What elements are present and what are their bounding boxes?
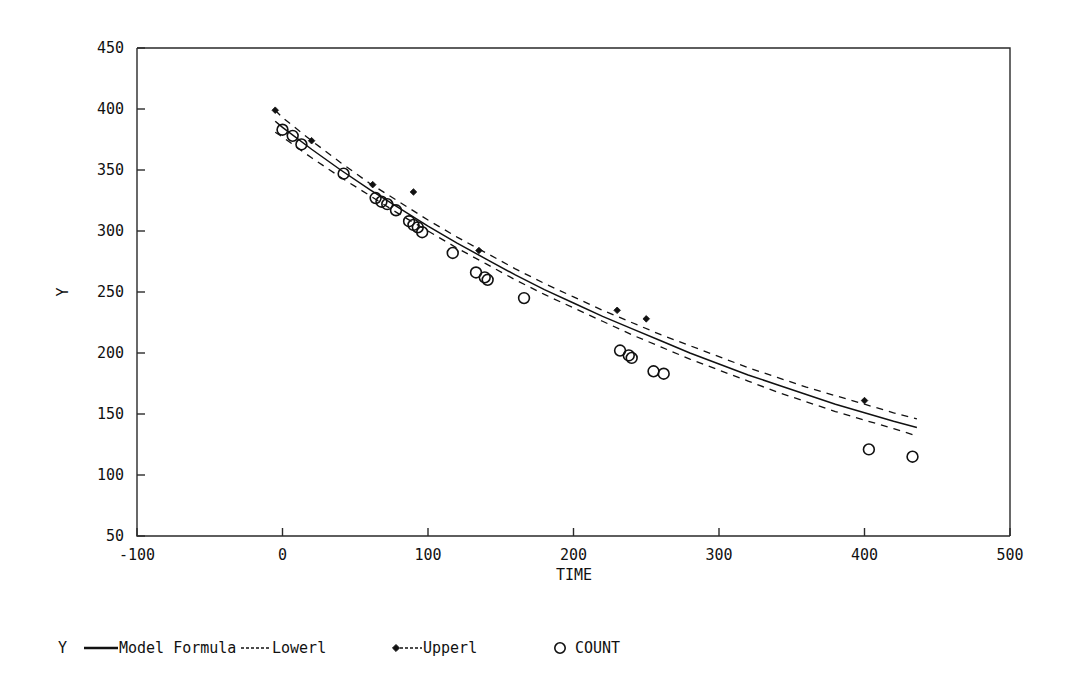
y-tick-label: 400 [97, 100, 124, 118]
legend-item-label: COUNT [575, 639, 620, 657]
count-point [907, 451, 918, 462]
count-point [519, 293, 530, 304]
upper-limit-markers [272, 107, 868, 404]
x-tick-label: 300 [705, 546, 732, 564]
upper-limit-diamond [476, 247, 483, 254]
count-data-points [277, 124, 918, 462]
y-tick-label: 450 [97, 39, 124, 57]
upper-limit-diamond [369, 181, 376, 188]
lowerl-band-line [275, 132, 917, 436]
upper-limit-diamond [410, 189, 417, 196]
upper-limit-diamond [614, 307, 621, 314]
upperl-band-line [275, 110, 917, 419]
count-point [479, 272, 490, 283]
y-tick-label: 50 [106, 527, 124, 545]
count-point [623, 350, 634, 361]
count-point [626, 352, 637, 363]
chart-container: -1000100200300400500 5010015020025030035… [0, 0, 1073, 700]
y-axis-tick-labels: 50100150200250300350400450 [97, 39, 124, 545]
y-tick-label: 200 [97, 344, 124, 362]
y-axis-ticks [137, 48, 145, 536]
legend-prefix-label: Y [58, 639, 67, 657]
x-tick-label: 0 [278, 546, 287, 564]
legend-diamond-icon [392, 644, 399, 651]
count-point [648, 366, 659, 377]
legend-circle-icon [555, 643, 565, 653]
x-tick-label: 100 [414, 546, 441, 564]
count-point [863, 444, 874, 455]
x-axis-title: TIME [556, 566, 592, 584]
y-axis-title: Y [54, 287, 72, 296]
upper-limit-diamond [643, 316, 650, 323]
legend-item-label: Model Formula [119, 639, 236, 657]
x-tick-label: 400 [851, 546, 878, 564]
y-tick-label: 350 [97, 161, 124, 179]
x-axis-tick-labels: -1000100200300400500 [119, 546, 1024, 564]
confidence-band-lines [275, 110, 917, 436]
y-tick-label: 100 [97, 466, 124, 484]
model-formula-line [275, 121, 917, 427]
x-axis-ticks [137, 528, 1010, 536]
chart-svg: -1000100200300400500 5010015020025030035… [0, 0, 1073, 700]
count-point [658, 368, 669, 379]
x-tick-label: -100 [119, 546, 155, 564]
count-point [482, 274, 493, 285]
count-point [447, 248, 458, 259]
plot-frame [137, 48, 1010, 536]
model-formula-curve [275, 121, 917, 427]
y-tick-label: 150 [97, 405, 124, 423]
legend-item-label: Upperl [423, 639, 477, 657]
axis-top-right-border [137, 48, 1010, 536]
chart-legend: YModel FormulaLowerlUpperlCOUNT [58, 639, 620, 657]
upper-limit-diamond [861, 397, 868, 404]
x-tick-label: 200 [560, 546, 587, 564]
axis-spines [137, 48, 1010, 536]
legend-item-label: Lowerl [272, 639, 326, 657]
y-tick-label: 300 [97, 222, 124, 240]
x-tick-label: 500 [996, 546, 1023, 564]
y-tick-label: 250 [97, 283, 124, 301]
